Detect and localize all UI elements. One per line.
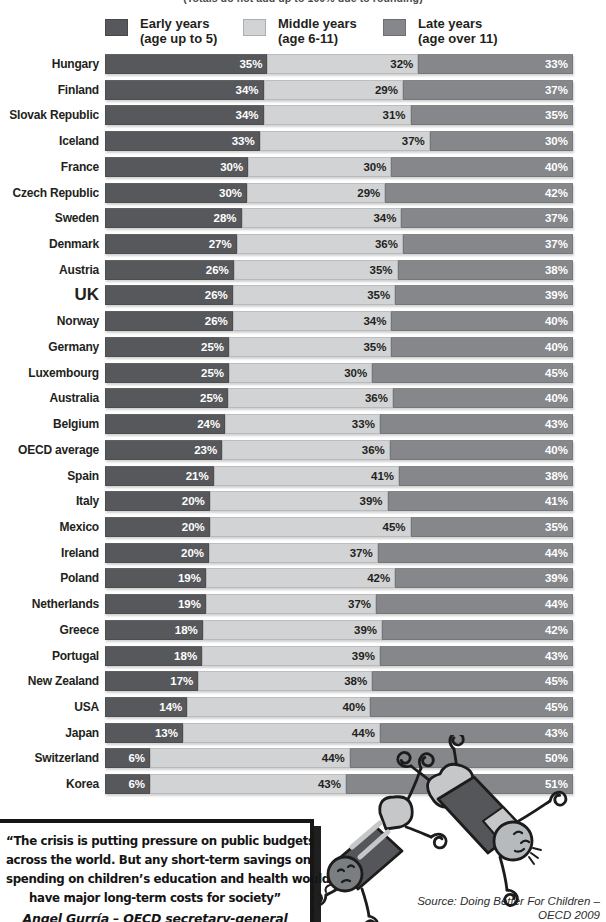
country-label: Hungary bbox=[8, 57, 105, 71]
bar-segment-early: 19% bbox=[105, 568, 206, 588]
bar-segment-late: 45% bbox=[372, 363, 573, 383]
bar-segment-early: 19% bbox=[105, 594, 206, 614]
segment-value: 34% bbox=[236, 84, 264, 96]
bar-segment-late: 39% bbox=[395, 568, 573, 588]
bar-segment-middle: 36% bbox=[237, 234, 403, 254]
bar-segment-early: 20% bbox=[105, 491, 210, 511]
chart-row: USA14%40%45% bbox=[8, 697, 573, 717]
segment-value: 30% bbox=[363, 161, 391, 173]
legend-item-early-years: Early years(age up to 5) bbox=[105, 16, 217, 46]
bar-segment-late: 44% bbox=[378, 543, 573, 563]
stacked-bar: 21%41%38% bbox=[105, 466, 573, 486]
country-label: Czech Republic bbox=[8, 186, 105, 200]
country-label: UK bbox=[8, 285, 105, 305]
bar-segment-middle: 39% bbox=[202, 646, 380, 666]
segment-value: 26% bbox=[206, 264, 234, 276]
bar-segment-middle: 29% bbox=[247, 183, 385, 203]
bar-segment-early: 18% bbox=[105, 620, 203, 640]
bar-segment-early: 26% bbox=[105, 285, 233, 305]
bar-segment-middle: 37% bbox=[209, 543, 378, 563]
country-label: Mexico bbox=[8, 520, 105, 534]
bar-segment-early: 27% bbox=[105, 234, 237, 254]
bar-segment-early: 21% bbox=[105, 466, 214, 486]
segment-value: 33% bbox=[232, 135, 260, 147]
bar-segment-middle: 43% bbox=[150, 774, 346, 794]
country-label: Slovak Republic bbox=[8, 108, 105, 122]
chart-row: Hungary35%32%33% bbox=[8, 54, 573, 74]
bar-segment-late: 40% bbox=[393, 388, 573, 408]
segment-value: 38% bbox=[344, 675, 372, 687]
country-label: Japan bbox=[8, 726, 105, 740]
bar-segment-late: 40% bbox=[391, 157, 573, 177]
late-years-swatch bbox=[383, 19, 406, 36]
bar-segment-early: 23% bbox=[105, 440, 222, 460]
bar-segment-late: 40% bbox=[390, 440, 573, 460]
segment-value: 19% bbox=[178, 572, 206, 584]
segment-value: 35% bbox=[370, 264, 398, 276]
bar-segment-middle: 38% bbox=[198, 671, 372, 691]
bar-segment-early: 6% bbox=[105, 748, 150, 768]
segment-value: 40% bbox=[545, 315, 573, 327]
quote-text: across the world. But any short-term sav… bbox=[6, 851, 304, 870]
bar-segment-early: 6% bbox=[105, 774, 150, 794]
bar-segment-early: 34% bbox=[105, 105, 264, 125]
segment-value: 42% bbox=[545, 624, 573, 636]
stacked-bar: 20%39%41% bbox=[105, 491, 573, 511]
segment-value: 23% bbox=[194, 444, 222, 456]
chart-row: Sweden28%34%37% bbox=[8, 208, 573, 228]
country-label: Italy bbox=[8, 494, 105, 508]
bar-segment-late: 45% bbox=[372, 671, 573, 691]
bar-segment-middle: 39% bbox=[203, 620, 382, 640]
segment-value: 37% bbox=[545, 238, 573, 250]
bar-segment-middle: 41% bbox=[214, 466, 399, 486]
stacked-bar: 25%35%40% bbox=[105, 337, 573, 357]
bar-segment-late: 43% bbox=[380, 646, 573, 666]
segment-value: 25% bbox=[201, 341, 229, 353]
stacked-bar: 17%38%45% bbox=[105, 671, 573, 691]
chart-row: OECD average23%36%40% bbox=[8, 440, 573, 460]
bar-segment-middle: 37% bbox=[206, 594, 376, 614]
bar-segment-early: 26% bbox=[105, 260, 234, 280]
bar-segment-middle: 39% bbox=[210, 491, 388, 511]
bar-segment-early: 35% bbox=[105, 54, 267, 74]
bar-segment-late: 35% bbox=[411, 105, 573, 125]
chart-row: Greece18%39%42% bbox=[8, 620, 573, 640]
bar-segment-middle: 36% bbox=[222, 440, 390, 460]
chart-row: Italy20%39%41% bbox=[8, 491, 573, 511]
segment-value: 25% bbox=[200, 392, 228, 404]
stacked-bar: 33%37%30% bbox=[105, 131, 573, 151]
segment-value: 37% bbox=[545, 84, 573, 96]
bar-segment-early: 25% bbox=[105, 363, 229, 383]
rounding-note: (Totals do not add up to 100% due to rou… bbox=[0, 0, 606, 4]
country-label: OECD average bbox=[8, 443, 105, 457]
country-label: Spain bbox=[8, 469, 105, 483]
segment-value: 36% bbox=[362, 444, 390, 456]
segment-value: 30% bbox=[545, 135, 573, 147]
bar-segment-late: 41% bbox=[388, 491, 573, 511]
segment-value: 38% bbox=[545, 470, 573, 482]
chart-row: Ireland20%37%44% bbox=[8, 543, 573, 563]
country-label: Germany bbox=[8, 340, 105, 354]
bar-segment-late: 37% bbox=[401, 208, 573, 228]
segment-value: 35% bbox=[545, 521, 573, 533]
segment-value: 13% bbox=[155, 727, 183, 739]
chart-row: Denmark27%36%37% bbox=[8, 234, 573, 254]
segment-value: 39% bbox=[545, 572, 573, 584]
bar-segment-late: 38% bbox=[399, 466, 573, 486]
country-label: Portugal bbox=[8, 649, 105, 663]
bar-segment-late: 38% bbox=[398, 260, 573, 280]
stacked-bar: 34%31%35% bbox=[105, 105, 573, 125]
stacked-bar: 30%29%42% bbox=[105, 183, 573, 203]
legend-item-middle-years: Middle years(age 6-11) bbox=[243, 16, 357, 46]
segment-value: 26% bbox=[205, 289, 233, 301]
segment-value: 36% bbox=[375, 238, 403, 250]
bar-segment-early: 18% bbox=[105, 646, 202, 666]
bar-segment-early: 25% bbox=[105, 337, 229, 357]
bar-segment-middle: 31% bbox=[264, 105, 411, 125]
segment-value: 39% bbox=[545, 289, 573, 301]
segment-value: 19% bbox=[178, 598, 206, 610]
chart-row: Poland19%42%39% bbox=[8, 568, 573, 588]
bar-segment-late: 37% bbox=[403, 234, 573, 254]
segment-value: 32% bbox=[390, 58, 418, 70]
stacked-bar: 24%33%43% bbox=[105, 414, 573, 434]
